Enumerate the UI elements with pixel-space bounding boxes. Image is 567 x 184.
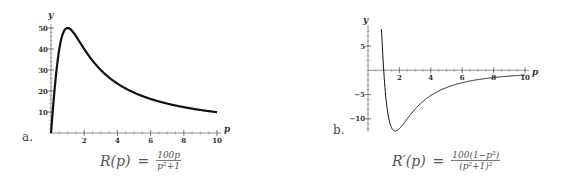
y-tick-label: 50 <box>38 24 48 33</box>
formula-a-lhs: R(p) <box>100 153 130 169</box>
x-tick-label: 8 <box>181 136 186 145</box>
y-tick-label: 10 <box>38 108 48 117</box>
formula-a: R(p) = 100p p²+1 <box>100 150 181 171</box>
formula-b-fraction: 100(1−p²) (p²+1)² <box>451 150 500 171</box>
formula-b-numerator: 100(1−p²) <box>451 150 500 161</box>
formula-b-lhs: R′(p) <box>392 153 426 169</box>
formula-b-denominator: (p²+1)² <box>459 161 492 171</box>
x-tick-label: 4 <box>115 136 120 145</box>
x-tick-label: 4 <box>428 73 433 82</box>
y-tick-label: 30 <box>38 66 48 75</box>
formula-b-eq: = <box>433 153 445 169</box>
x-tick-label: 6 <box>148 136 153 145</box>
formula-a-numerator: 100p <box>156 150 181 161</box>
formula-a-denominator: p²+1 <box>157 161 180 171</box>
x-axis-label: p <box>532 67 539 77</box>
panel-label: a. <box>22 130 33 144</box>
x-tick-label: 2 <box>82 136 87 145</box>
y-tick-label: −5 <box>354 90 365 99</box>
panel-label: b. <box>333 123 345 137</box>
formula-a-fraction: 100p p²+1 <box>156 150 181 171</box>
y-axis-label: y <box>47 10 54 20</box>
x-axis-label: p <box>224 124 231 134</box>
formula-b: R′(p) = 100(1−p²) (p²+1)² <box>392 150 500 171</box>
x-tick-label: 10 <box>212 136 222 145</box>
y-tick-label: 20 <box>38 87 48 96</box>
chart-b: 246810−10−55pyb. <box>333 15 539 137</box>
y-tick-label: −10 <box>349 114 365 123</box>
x-tick-label: 10 <box>520 73 530 82</box>
y-tick-label: 5 <box>360 42 365 51</box>
series-line <box>381 29 525 131</box>
formula-a-eq: = <box>137 153 149 169</box>
y-axis-label: y <box>362 15 369 25</box>
x-tick-label: 2 <box>397 73 402 82</box>
series-line <box>51 28 217 133</box>
y-tick-label: 40 <box>38 45 48 54</box>
x-tick-label: 6 <box>460 73 465 82</box>
chart-a: 2468101020304050pya. <box>22 10 231 145</box>
